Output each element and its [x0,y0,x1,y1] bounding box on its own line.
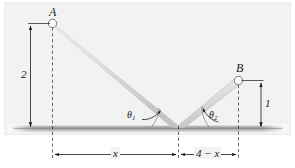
dimension-label-horizontal-right: 4 − x [194,148,221,159]
dimension-label-horizontal-right-text: 4 − x [194,147,221,159]
angle-label-theta1: θ1 [127,110,135,120]
angle-label-theta1-subscript: 1 [132,114,136,122]
ground-band [8,125,287,133]
dimension-label-vertical-right: 1 [265,98,271,109]
dimension-label-horizontal-left: x [111,148,120,159]
point-label-a: A [49,6,56,18]
dimension-vertical-right [242,81,264,127]
dimension-vertical-left [28,24,50,127]
bar-vertex-b [176,79,242,128]
dimension-label-vertical-left: 2 [21,69,27,80]
joint-b-marker [234,76,242,84]
angle-label-theta2: θ2 [209,110,217,120]
diagram-vector-layer [0,0,295,168]
dimension-label-horizontal-left-text: x [111,147,120,159]
figure-canvas: A B 2 1 x 4 − x θ1 θ2 [0,0,295,168]
point-label-b: B [236,62,243,74]
bar-a-vertex [51,24,181,128]
angle-label-theta2-subscript: 2 [214,114,218,122]
